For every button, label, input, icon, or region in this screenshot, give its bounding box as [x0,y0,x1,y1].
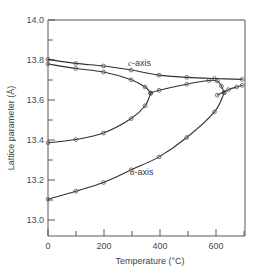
x-axis-title: Temperature (°C) [115,256,184,266]
chart-svg: 14.0 13.8 13.6 13.4 13.2 13.0 0 200 400 … [0,0,260,274]
a-axis-annotation-rest: -axis [135,167,155,177]
y-tick-label-13-6: 13.6 [26,95,44,105]
lattice-parameter-chart: 14.0 13.8 13.6 13.4 13.2 13.0 0 200 400 … [0,0,260,274]
y-tick-label-14-0: 14.0 [26,15,44,25]
y-axis-title: Lattice parameter (Å) [6,86,16,171]
c-axis-annotation: c-axis [128,58,152,68]
x-tick-label-0: 0 [45,241,50,251]
x-tick-label-600: 600 [208,241,223,251]
y-tick-label-13-0: 13.0 [26,215,44,225]
x-tick-label-400: 400 [152,241,167,251]
y-tick-label-13-2: 13.2 [26,175,44,185]
y-tick-label-13-8: 13.8 [26,55,44,65]
c-axis-annotation-rest: -axis [132,58,152,68]
x-tick-label-200: 200 [96,241,111,251]
y-tick-label-13-4: 13.4 [26,135,44,145]
